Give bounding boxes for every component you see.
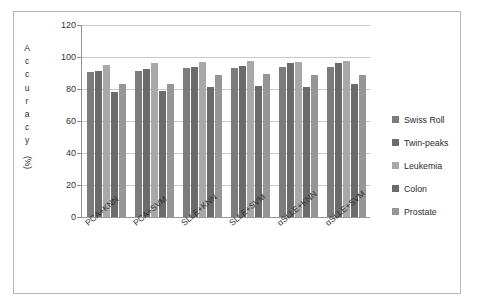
y-axis-tick-labels: 020406080100120 <box>50 25 76 217</box>
y-axis-title-letter: c <box>19 55 35 68</box>
bar-group <box>178 25 226 217</box>
y-axis-title-letter: a <box>19 108 35 121</box>
legend-item-label: Leukemia <box>404 161 442 171</box>
legend-item-label: Prostate <box>404 207 437 217</box>
y-axis-title-letter: r <box>19 95 35 108</box>
y-axis-title-unit: (%) <box>20 154 33 170</box>
bar <box>87 72 94 217</box>
bar <box>199 62 206 217</box>
bar <box>95 71 102 217</box>
bar <box>279 67 286 217</box>
legend-item: Prostate <box>392 200 477 223</box>
bar <box>191 67 198 217</box>
bar-group <box>322 25 370 217</box>
legend-item: Twin-peaks <box>392 131 477 154</box>
bar <box>103 65 110 217</box>
chart-legend: Swiss RollTwin-peaksLeukemiaColonProstat… <box>392 108 477 223</box>
bar <box>287 63 294 217</box>
y-axis-tick-label: 0 <box>50 212 76 222</box>
y-axis-tick-label: 120 <box>50 20 76 30</box>
bar <box>151 63 158 217</box>
legend-item: Colon <box>392 177 477 200</box>
y-axis-title: Accuracy(%) <box>19 42 35 169</box>
y-axis-title-letter: y <box>19 134 35 147</box>
legend-swatch-icon <box>392 116 399 123</box>
chart-figure: Accuracy(%) 020406080100120 PCA+KNNPCA+S… <box>13 11 461 294</box>
legend-item-label: Twin-peaks <box>404 138 449 148</box>
bar <box>343 61 350 217</box>
y-axis-tick-label: 80 <box>50 84 76 94</box>
y-axis-tick-label: 100 <box>50 52 76 62</box>
y-axis-tickmark <box>77 217 82 218</box>
y-axis-tick-label: 40 <box>50 148 76 158</box>
y-axis-title-letter: u <box>19 82 35 95</box>
bar <box>167 84 174 217</box>
legend-swatch-icon <box>392 139 399 146</box>
bar-group <box>82 25 130 217</box>
legend-item-label: Swiss Roll <box>404 115 445 125</box>
y-axis-tick-label: 20 <box>50 180 76 190</box>
legend-item: Leukemia <box>392 154 477 177</box>
bar-group <box>274 25 322 217</box>
bar <box>183 68 190 217</box>
legend-swatch-icon <box>392 208 399 215</box>
y-axis-title-letter: A <box>19 42 35 55</box>
bar <box>327 67 334 217</box>
plot-area: 020406080100120 <box>50 25 370 217</box>
bar <box>335 63 342 217</box>
legend-item-label: Colon <box>404 184 427 194</box>
bar <box>247 61 254 217</box>
bar <box>119 84 126 217</box>
legend-swatch-icon <box>392 185 399 192</box>
plot-canvas <box>81 25 370 217</box>
y-axis-tick-label: 60 <box>50 116 76 126</box>
bar-group <box>130 25 178 217</box>
bar <box>135 71 142 217</box>
y-axis-title-letter: c <box>19 121 35 134</box>
bar-groups <box>82 25 370 217</box>
bar <box>231 68 238 217</box>
bar <box>143 69 150 217</box>
bar-group <box>226 25 274 217</box>
x-axis-tick-labels: PCA+KNNPCA+SVMSLLE+KNNSLLE+SVMαSLLE+KNNα… <box>81 220 401 280</box>
legend-item: Swiss Roll <box>392 108 477 131</box>
bar <box>239 66 246 217</box>
y-axis-title-letter: c <box>19 68 35 81</box>
bar <box>295 62 302 217</box>
legend-swatch-icon <box>392 162 399 169</box>
